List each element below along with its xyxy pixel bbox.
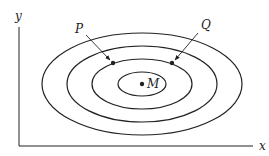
point-q [170, 61, 174, 65]
y-axis-label: y [14, 9, 22, 23]
point-m-label: M [146, 77, 160, 91]
point-p [111, 61, 115, 65]
arrow-q [175, 33, 198, 60]
contour-diagram: y x M P Q [0, 0, 269, 156]
x-axis-label: x [259, 139, 266, 153]
point-p-label: P [74, 22, 84, 36]
point-m [140, 82, 144, 86]
point-q-label: Q [201, 18, 211, 32]
